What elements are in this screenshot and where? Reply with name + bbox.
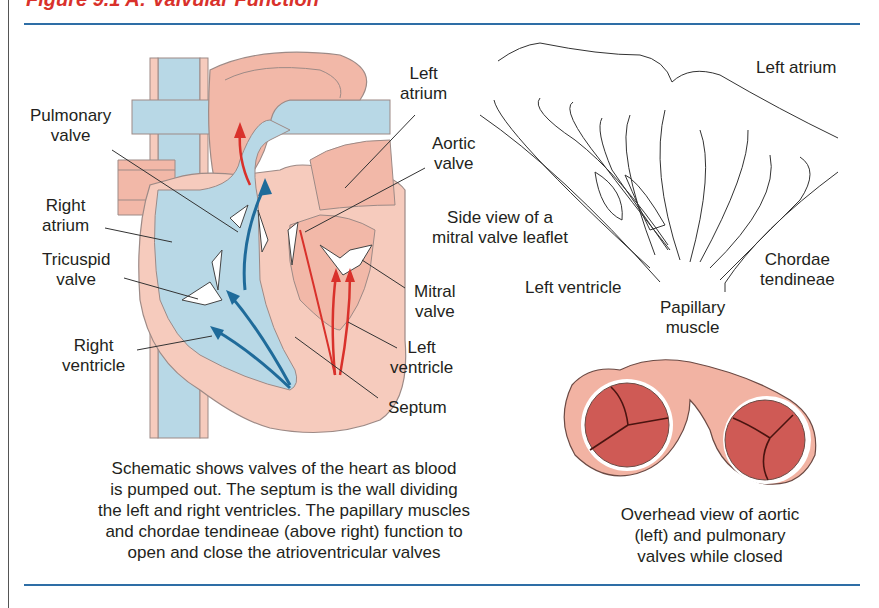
pulmonary-valve-overhead: [725, 400, 805, 480]
caption-line: Schematic shows valves of the heart as b…: [44, 458, 524, 479]
caption-line: Overhead view of aortic: [590, 504, 830, 525]
caption-line: the left and right ventricles. The papil…: [44, 500, 524, 521]
label-left-ventricle: Left ventricle: [390, 338, 453, 378]
label-left-atrium: Left atrium: [400, 64, 447, 104]
label-septum: Septum: [388, 398, 447, 418]
label-side-left-ventricle: Left ventricle: [525, 278, 621, 298]
label-line: atrium: [42, 216, 89, 236]
label-line: Pulmonary: [30, 106, 111, 126]
caption-line: valves while closed: [590, 546, 830, 567]
label-line: valve: [30, 126, 111, 146]
label-aortic-valve: Aortic valve: [432, 134, 475, 174]
label-line: ventricle: [62, 356, 125, 376]
label-line: Right: [62, 336, 125, 356]
label-line: Aortic: [432, 134, 475, 154]
caption-line: (left) and pulmonary: [590, 525, 830, 546]
label-line: ventricle: [390, 358, 453, 378]
label-line: Mitral: [414, 282, 456, 302]
label-line: valve: [414, 302, 456, 322]
caption-line: is pumped out. The septum is the wall di…: [44, 479, 524, 500]
label-mitral-valve: Mitral valve: [414, 282, 456, 322]
caption-line: open and close the atrioventricular valv…: [44, 542, 524, 563]
label-line: Left: [390, 338, 453, 358]
label-line: mitral valve leaflet: [432, 228, 568, 248]
label-tricuspid-valve: Tricuspid valve: [42, 250, 110, 290]
label-line: valve: [432, 154, 475, 174]
label-line: Papillary: [660, 298, 725, 318]
label-line: valve: [42, 270, 110, 290]
label-line: tendineae: [760, 270, 835, 290]
overhead-caption: Overhead view of aortic (left) and pulmo…: [590, 504, 830, 567]
label-papillary-muscle: Papillary muscle: [660, 298, 725, 338]
label-pulmonary-valve: Pulmonary valve: [30, 106, 111, 146]
label-line: Chordae: [760, 250, 835, 270]
label-chordae-tendineae: Chordae tendineae: [760, 250, 835, 290]
label-line: Tricuspid: [42, 250, 110, 270]
label-line: Side view of a: [432, 208, 568, 228]
label-line: Left: [400, 64, 447, 84]
label-line: atrium: [400, 84, 447, 104]
label-side-view: Side view of a mitral valve leaflet: [432, 208, 568, 248]
label-line: Right: [42, 196, 89, 216]
heart-caption: Schematic shows valves of the heart as b…: [44, 458, 524, 563]
label-line: muscle: [660, 318, 725, 338]
label-right-ventricle: Right ventricle: [62, 336, 125, 376]
caption-line: and chordae tendineae (above right) func…: [44, 521, 524, 542]
label-side-left-atrium: Left atrium: [756, 58, 836, 78]
label-right-atrium: Right atrium: [42, 196, 89, 236]
